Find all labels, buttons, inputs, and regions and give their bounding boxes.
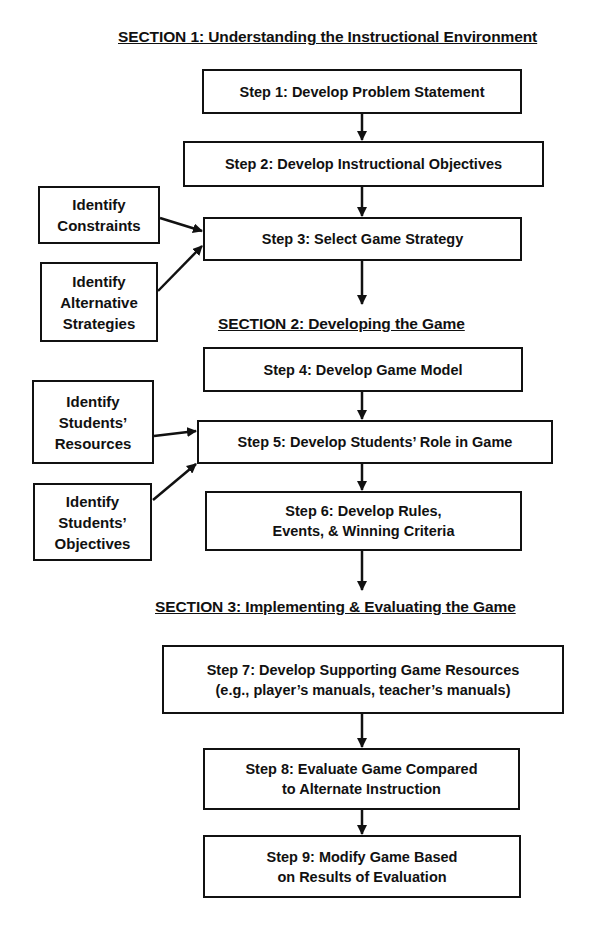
step-9-label-line-2: on Results of Evaluation xyxy=(277,867,446,887)
identify-students-resources-line-1: Identify xyxy=(66,391,119,412)
identify-students-resources-line-3: Resources xyxy=(55,433,132,454)
step-5-label: Step 5: Develop Students’ Role in Game xyxy=(238,432,513,452)
identify-constraints-box: Identify Constraints xyxy=(38,186,160,244)
step-5-box: Step 5: Develop Students’ Role in Game xyxy=(197,420,553,464)
identify-alternative-strategies-box: Identify Alternative Strategies xyxy=(40,262,158,342)
step-3-box: Step 3: Select Game Strategy xyxy=(203,217,522,261)
identify-students-objectives-line-2: Students’ xyxy=(58,512,126,533)
step-1-label: Step 1: Develop Problem Statement xyxy=(240,82,485,102)
step-4-label: Step 4: Develop Game Model xyxy=(263,360,462,380)
identify-alternative-strategies-line-2: Alternative xyxy=(60,292,138,313)
identify-constraints-line-2: Constraints xyxy=(57,215,140,236)
step-8-label-line-1: Step 8: Evaluate Game Compared xyxy=(245,759,477,779)
identify-students-objectives-box: Identify Students’ Objectives xyxy=(33,483,152,561)
identify-alternative-strategies-line-1: Identify xyxy=(72,271,125,292)
identify-constraints-line-1: Identify xyxy=(72,194,125,215)
step-7-box: Step 7: Develop Supporting Game Resource… xyxy=(162,645,564,714)
step-1-box: Step 1: Develop Problem Statement xyxy=(202,69,522,114)
step-6-box: Step 6: Develop Rules, Events, & Winning… xyxy=(205,491,522,551)
section-3-heading: SECTION 3: Implementing & Evaluating the… xyxy=(155,598,516,616)
identify-alternative-strategies-line-3: Strategies xyxy=(63,313,136,334)
step-4-box: Step 4: Develop Game Model xyxy=(203,347,523,392)
identify-students-resources-box: Identify Students’ Resources xyxy=(32,380,154,464)
step-6-label-line-1: Step 6: Develop Rules, xyxy=(285,501,441,521)
step-6-label-line-2: Events, & Winning Criteria xyxy=(273,521,455,541)
step-7-label-line-2: (e.g., player’s manuals, teacher’s manua… xyxy=(216,680,511,700)
step-8-label-line-2: to Alternate Instruction xyxy=(282,779,441,799)
step-3-label: Step 3: Select Game Strategy xyxy=(262,229,463,249)
identify-students-objectives-line-3: Objectives xyxy=(55,533,131,554)
section-2-heading: SECTION 2: Developing the Game xyxy=(218,315,465,333)
identify-students-objectives-line-1: Identify xyxy=(66,491,119,512)
step-9-label-line-1: Step 9: Modify Game Based xyxy=(267,847,458,867)
step-7-label-line-1: Step 7: Develop Supporting Game Resource… xyxy=(207,660,520,680)
step-9-box: Step 9: Modify Game Based on Results of … xyxy=(203,835,521,898)
step-2-label: Step 2: Develop Instructional Objectives xyxy=(225,154,502,174)
step-2-box: Step 2: Develop Instructional Objectives xyxy=(183,141,544,187)
step-8-box: Step 8: Evaluate Game Compared to Altern… xyxy=(203,748,520,810)
section-1-heading: SECTION 1: Understanding the Instruction… xyxy=(118,28,537,46)
identify-students-resources-line-2: Students’ xyxy=(59,412,127,433)
